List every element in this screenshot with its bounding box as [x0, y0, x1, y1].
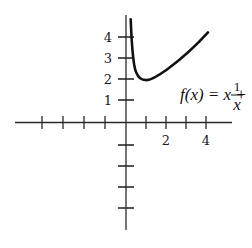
y-tick-label-3: 3	[104, 51, 112, 66]
y-tick-label-2: 2	[104, 72, 112, 87]
y-tick-label-1: 1	[104, 93, 112, 108]
function-curve	[131, 19, 208, 80]
function-label-numerator: 1	[234, 79, 241, 94]
y-tick-label-4: 4	[104, 30, 112, 45]
x-tick-label-2: 2	[162, 133, 170, 148]
function-plot: 4 3 2 1 2 4 f(x) = x + 1 x	[0, 0, 252, 248]
function-label-denominator: x	[232, 95, 241, 114]
x-tick-label-4: 4	[202, 133, 210, 148]
